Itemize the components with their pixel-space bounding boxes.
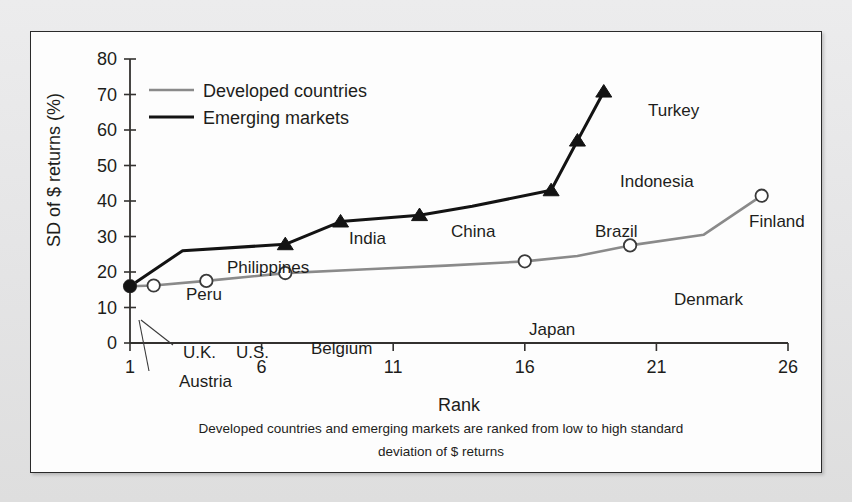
x-tick-label: 1 — [125, 357, 135, 377]
x-tick-label: 11 — [384, 357, 403, 377]
data-point-marker — [755, 189, 767, 201]
figure-frame: 01020304050607080 1611162126 SD of $ ret… — [30, 31, 822, 473]
data-point-marker — [543, 183, 559, 196]
data-point-label: Denmark — [674, 290, 743, 309]
series-line-emerging-markets — [130, 92, 604, 287]
legend-label-developed-countries: Developed countries — [203, 81, 367, 101]
data-point-marker — [147, 279, 159, 291]
data-point-label: U.S. — [236, 343, 269, 362]
data-point-label: Peru — [186, 285, 222, 304]
austria-leader-line — [139, 320, 149, 371]
data-point-marker — [569, 134, 585, 147]
data-point-marker — [124, 280, 136, 292]
y-tick-label: 40 — [97, 191, 117, 211]
y-tick-label: 70 — [97, 85, 117, 105]
y-tick-label: 60 — [97, 120, 117, 140]
y-tick-label: 20 — [97, 262, 117, 282]
data-point-marker — [624, 239, 636, 251]
uk-leader-line — [141, 320, 173, 345]
data-point-marker — [596, 85, 612, 98]
data-point-label: U.K. — [183, 343, 216, 362]
data-point-label: Austria — [179, 372, 232, 391]
y-tick-group: 01020304050607080 — [97, 49, 136, 353]
data-point-label: Japan — [529, 320, 575, 339]
x-tick-label: 21 — [646, 357, 666, 377]
data-point-label: Turkey — [648, 101, 700, 120]
caption-line-1: Developed countries and emerging markets… — [199, 421, 684, 436]
x-tick-label: 26 — [778, 357, 798, 377]
x-tick-label: 16 — [515, 357, 535, 377]
line-chart: 01020304050607080 1611162126 SD of $ ret… — [31, 32, 820, 471]
chart-legend: Developed countries Emerging markets — [149, 81, 367, 128]
markers-developed-countries — [124, 189, 768, 292]
x-axis-title: Rank — [438, 395, 481, 415]
data-point-marker — [519, 255, 531, 267]
data-point-label: Indonesia — [620, 172, 694, 191]
legend-label-emerging-markets: Emerging markets — [203, 108, 349, 128]
data-point-label: India — [349, 229, 386, 248]
data-point-label: Philippines — [227, 258, 309, 277]
figure-page: 01020304050607080 1611162126 SD of $ ret… — [0, 0, 852, 502]
data-point-label: Finland — [749, 212, 805, 231]
data-point-label: China — [451, 222, 496, 241]
y-tick-label: 0 — [107, 333, 117, 353]
y-tick-label: 30 — [97, 227, 117, 247]
data-point-label: Belgium — [311, 339, 372, 358]
data-point-label: Brazil — [595, 222, 638, 241]
y-tick-label: 80 — [97, 49, 117, 69]
caption-line-2: deviation of $ returns — [378, 444, 504, 459]
y-tick-label: 50 — [97, 156, 117, 176]
y-axis-title: SD of $ returns (%) — [44, 93, 64, 247]
y-tick-label: 10 — [97, 298, 117, 318]
